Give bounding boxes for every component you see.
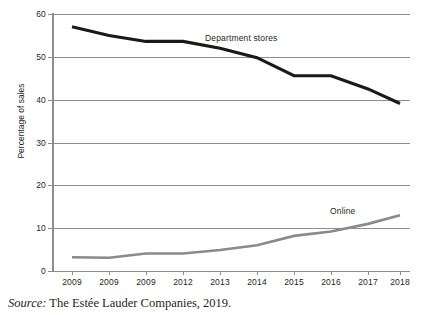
source-label: Source: (8, 296, 46, 310)
series-label-department-stores: Department stores (205, 33, 277, 43)
line-online (72, 215, 400, 257)
source-text: The Estée Lauder Companies, 2019. (49, 296, 231, 310)
source-note: Source: The Estée Lauder Companies, 2019… (8, 296, 231, 311)
series-lines (0, 0, 424, 315)
chart-figure: 60 50 40 30 20 10 0 Percentage of sales … (0, 0, 424, 315)
series-label-online: Online (330, 206, 355, 216)
